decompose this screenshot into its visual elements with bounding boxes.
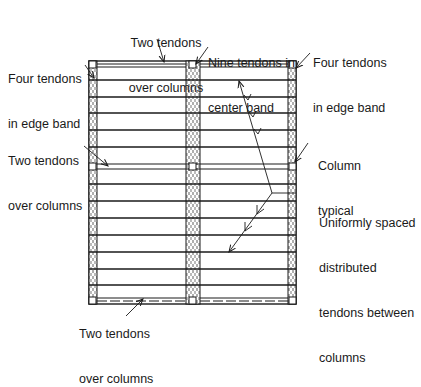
leader-column-typical [295, 143, 308, 162]
label-line: Four tendons [313, 56, 387, 71]
label-line: over columns [8, 199, 82, 214]
column [289, 163, 296, 170]
column [189, 297, 196, 304]
label-line: Nine tendons in [208, 56, 295, 71]
label-uniform-tendons: Uniformly spaced distributed tendons bet… [319, 186, 416, 387]
label-line: over columns [118, 81, 214, 96]
label-top-center: Two tendons over columns [118, 6, 214, 126]
column [189, 163, 196, 170]
column [89, 163, 96, 170]
label-line: in edge band [313, 101, 387, 116]
label-line: columns [319, 351, 416, 366]
label-line: Two tendons [118, 36, 214, 51]
label-line: Four tendons [8, 72, 82, 87]
label-line: Column [318, 159, 361, 174]
column [89, 61, 96, 68]
label-line: Two tendons [79, 327, 153, 342]
label-top-middle: Nine tendons in center band [208, 26, 295, 146]
label-mid-left: Two tendons over columns [8, 124, 82, 244]
label-line: Two tendons [8, 154, 82, 169]
label-line: over columns [79, 372, 153, 387]
label-top-right: Four tendons in edge band [313, 26, 387, 146]
label-line: Uniformly spaced [319, 216, 416, 231]
leader-top-right [296, 53, 310, 68]
label-bottom: Two tendons over columns [79, 297, 153, 387]
column [289, 297, 296, 304]
label-line: tendons between [319, 306, 416, 321]
label-line: distributed [319, 261, 416, 276]
label-line: center band [208, 101, 295, 116]
